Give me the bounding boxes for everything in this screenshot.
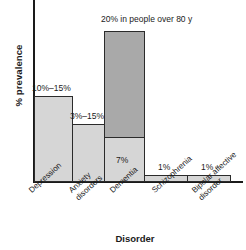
y-axis-title: % prevalence [13,26,24,126]
bar-label-anxiety-disorders: 3%–15% [70,111,104,121]
bar-label-depression: 10%–15% [32,83,71,93]
x-axis-title: Disorder [80,233,190,244]
prevalence-bar-chart: % prevalence 10%–15% 3%–15% 7% 20% in pe… [0,0,246,250]
bar-label-dementia: 7% [116,155,128,165]
bar-dementia-upper-segment [104,31,145,138]
annotation-dementia-over-80: 20% in people over 80 y [101,14,192,24]
